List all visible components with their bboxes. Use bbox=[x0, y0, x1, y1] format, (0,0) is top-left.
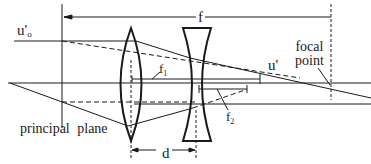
f2-label: f2 bbox=[226, 110, 234, 126]
refracted-ray-2 bbox=[190, 58, 371, 98]
diverging-lens bbox=[183, 28, 211, 141]
principal-plane-label: principal plane bbox=[20, 122, 108, 136]
refracted-ray-1 bbox=[136, 41, 190, 58]
focal-point-label: focal point bbox=[295, 40, 324, 68]
d-arrow-right-icon bbox=[189, 148, 195, 152]
focal-point-leader bbox=[318, 68, 330, 85]
d-arrow-left-icon bbox=[132, 148, 138, 152]
incoming-ray-lower bbox=[10, 83, 128, 126]
u0-prime-label: u'o bbox=[17, 23, 32, 39]
telephoto-lens-diagram bbox=[0, 0, 371, 164]
u-prime-label: u' bbox=[268, 58, 278, 73]
f-label: f bbox=[196, 10, 205, 25]
f-arrow-left-icon bbox=[64, 15, 72, 19]
extrapolated-ray-dashed bbox=[62, 41, 300, 78]
f1-label: f1 bbox=[159, 62, 167, 78]
d-label: d bbox=[160, 146, 172, 161]
